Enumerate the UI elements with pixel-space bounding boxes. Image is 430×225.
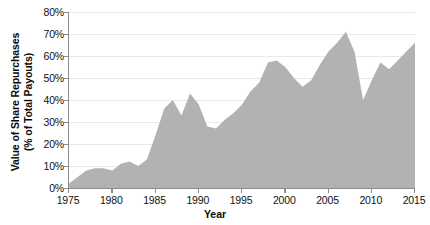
x-axis-tick-mark xyxy=(111,188,112,193)
y-axis-tick-label: 80% xyxy=(44,6,64,18)
x-axis-tick-mark xyxy=(371,188,372,193)
x-axis-tick-label: 1985 xyxy=(143,194,166,206)
y-axis-tick-mark xyxy=(64,12,69,13)
area-series-svg xyxy=(69,12,415,188)
y-axis-tick-mark xyxy=(64,100,69,101)
y-axis-tick-label: 50% xyxy=(44,72,64,84)
y-axis-tick-mark xyxy=(64,56,69,57)
y-axis-tick-label: 20% xyxy=(44,138,64,150)
x-axis-title: Year xyxy=(0,208,430,220)
y-axis-tick-mark xyxy=(64,78,69,79)
x-axis-tick-mark xyxy=(68,188,69,193)
y-axis-tick-mark xyxy=(64,122,69,123)
x-axis-tick-mark xyxy=(284,188,285,193)
plot-area xyxy=(68,12,415,188)
y-axis-tick-label: 60% xyxy=(44,50,64,62)
share-repurchases-area-chart: Value of Share Repurchases (% of Total P… xyxy=(0,0,430,225)
x-axis-tick-label: 1990 xyxy=(186,194,209,206)
y-axis-tick-labels: 0%10%20%30%40%50%60%70%80% xyxy=(26,0,64,225)
x-axis-tick-label: 2000 xyxy=(273,194,296,206)
x-axis-tick-mark xyxy=(414,188,415,193)
x-axis-tick-label: 1980 xyxy=(100,194,123,206)
y-axis-tick-label: 40% xyxy=(44,94,64,106)
x-axis-tick-mark xyxy=(155,188,156,193)
x-axis-tick-mark xyxy=(241,188,242,193)
x-axis-tick-mark xyxy=(328,188,329,193)
y-axis-title-line1: Value of Share Repurchases xyxy=(10,33,22,172)
area-series-path xyxy=(69,32,415,188)
y-axis-tick-label: 30% xyxy=(44,116,64,128)
y-axis-tick-label: 0% xyxy=(49,182,64,194)
y-axis-tick-mark xyxy=(64,34,69,35)
y-axis-tick-mark xyxy=(64,166,69,167)
y-axis-tick-label: 10% xyxy=(44,160,64,172)
y-axis-tick-mark xyxy=(64,144,69,145)
x-axis-tick-label: 2005 xyxy=(316,194,339,206)
x-axis-tick-label: 2015 xyxy=(403,194,426,206)
x-axis-tick-label: 1995 xyxy=(230,194,253,206)
x-axis-tick-label: 2010 xyxy=(359,194,382,206)
x-axis-tick-label: 1975 xyxy=(57,194,80,206)
y-axis-tick-label: 70% xyxy=(44,28,64,40)
x-axis-tick-mark xyxy=(198,188,199,193)
